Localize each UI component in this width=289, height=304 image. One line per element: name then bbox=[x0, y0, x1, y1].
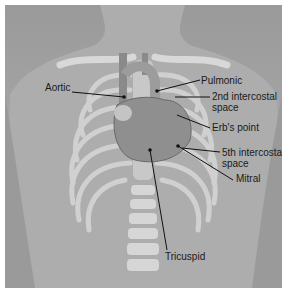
bottom-margin bbox=[0, 288, 289, 304]
label-tricuspid: Tricuspid bbox=[165, 251, 205, 262]
label-mitral: Mitral bbox=[236, 173, 260, 184]
label-aortic: Aortic bbox=[45, 82, 71, 93]
label-5th-intercostal-line2: space bbox=[222, 158, 249, 169]
label-erbs-point: Erb's point bbox=[212, 122, 259, 133]
anatomy-illustration: Aortic Pulmonic 2nd intercostal space Er… bbox=[5, 5, 282, 288]
label-2nd-intercostal-line1: 2nd intercostal bbox=[212, 91, 277, 102]
label-5th-intercostal-line1: 5th intercostal bbox=[222, 147, 282, 158]
label-pulmonic: Pulmonic bbox=[201, 75, 242, 86]
label-2nd-intercostal-line2: space bbox=[212, 102, 239, 113]
